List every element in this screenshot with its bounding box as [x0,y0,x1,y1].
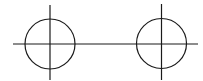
crosshair-diagram [0,0,203,81]
diagram-background [0,0,203,81]
